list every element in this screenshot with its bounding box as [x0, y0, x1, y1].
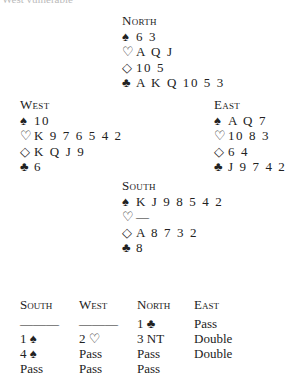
south-diamonds: ◇A 8 7 3 2	[122, 225, 223, 241]
bid: 3 NT	[137, 331, 194, 346]
heart-icon: ♡	[214, 128, 228, 144]
bid: Double	[194, 346, 254, 361]
south-hand: South ♠K J 9 8 5 4 2 ♡— ◇A 8 7 3 2 ♣8	[122, 178, 223, 256]
club-icon: ♣	[122, 240, 136, 256]
club-icon: ♣	[214, 159, 228, 175]
spade-icon: ♠	[122, 194, 136, 210]
diamond-icon: ◇	[122, 60, 136, 76]
bid: 2 ♡	[79, 331, 137, 346]
bid: Pass	[137, 361, 194, 376]
bid: Pass	[20, 361, 79, 376]
south-hearts: ♡—	[122, 209, 223, 225]
bid: 1 ♠	[20, 331, 79, 346]
auction-row: 1 ♠ 2 ♡ 3 NT Double	[20, 331, 254, 346]
header-south: South	[20, 297, 79, 316]
club-icon: ♣	[122, 75, 136, 91]
bid: Pass	[79, 346, 137, 361]
bid: Pass	[137, 346, 194, 361]
east-diamonds: ◇6 4	[214, 144, 286, 160]
auction-row: Pass Pass Pass	[20, 361, 254, 376]
bid: 1 ♣	[137, 316, 194, 331]
north-hearts: ♡A Q J	[122, 44, 225, 60]
heart-icon: ♡	[122, 44, 136, 60]
west-hearts: ♡K 9 7 6 5 4 2	[20, 128, 123, 144]
spade-icon: ♠	[20, 113, 34, 129]
bid: Double	[194, 331, 254, 346]
bid: 4 ♠	[20, 346, 79, 361]
bid: ———	[79, 316, 137, 331]
header-east: East	[194, 297, 254, 316]
auction-header: South West North East	[20, 297, 254, 316]
east-clubs: ♣J 9 7 4 2	[214, 159, 286, 175]
header-north: North	[137, 297, 194, 316]
diamond-icon: ◇	[214, 144, 228, 160]
north-hand: North ♠6 3 ♡A Q J ◇10 5 ♣A K Q 10 5 3	[122, 13, 225, 91]
bidding-auction: South West North East ——— ——— 1 ♣ Pass 1…	[20, 297, 254, 376]
east-hearts: ♡10 8 3	[214, 128, 286, 144]
auction-row: ——— ——— 1 ♣ Pass	[20, 316, 254, 331]
diamond-icon: ◇	[122, 225, 136, 241]
east-spades: ♠A Q 7	[214, 113, 286, 129]
vulnerability-note: West vulnerable	[2, 0, 73, 5]
west-spades: ♠10	[20, 113, 123, 129]
bid: Pass	[194, 316, 254, 331]
north-spades: ♠6 3	[122, 29, 225, 45]
east-title: East	[214, 97, 286, 113]
west-title: West	[20, 97, 123, 113]
auction-table: South West North East ——— ——— 1 ♣ Pass 1…	[20, 297, 254, 376]
heart-icon: ♡	[122, 209, 136, 225]
south-spades: ♠K J 9 8 5 4 2	[122, 194, 223, 210]
diamond-icon: ◇	[20, 144, 34, 160]
spade-icon: ♠	[122, 29, 136, 45]
bid	[194, 361, 254, 376]
north-title: North	[122, 13, 225, 29]
south-title: South	[122, 178, 223, 194]
auction-row: 4 ♠ Pass Pass Double	[20, 346, 254, 361]
east-hand: East ♠A Q 7 ♡10 8 3 ◇6 4 ♣J 9 7 4 2	[214, 97, 286, 175]
west-hand: West ♠10 ♡K 9 7 6 5 4 2 ◇K Q J 9 ♣6	[20, 97, 123, 175]
north-diamonds: ◇10 5	[122, 60, 225, 76]
bid: Pass	[79, 361, 137, 376]
north-clubs: ♣A K Q 10 5 3	[122, 75, 225, 91]
spade-icon: ♠	[214, 113, 228, 129]
header-west: West	[79, 297, 137, 316]
south-clubs: ♣8	[122, 240, 223, 256]
club-icon: ♣	[20, 159, 34, 175]
bid: ———	[20, 316, 79, 331]
west-diamonds: ◇K Q J 9	[20, 144, 123, 160]
heart-icon: ♡	[20, 128, 34, 144]
west-clubs: ♣6	[20, 159, 123, 175]
